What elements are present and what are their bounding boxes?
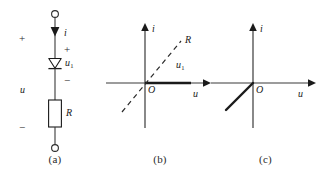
label-origin-b: O [148,85,155,95]
curve-combined-characteristic [226,83,253,110]
label-curve-u1: u1 [176,60,184,70]
label-axis-u-b: u [193,89,198,99]
curve-resistor-load-line [122,41,181,112]
label-axis-u-c: u [298,89,303,99]
label-current-i: i [64,28,67,38]
terminal-bottom-icon [52,145,59,152]
resistor-icon [49,100,62,127]
label-origin-c: O [256,85,263,95]
label-axis-i-b: i [152,24,155,34]
y-axis-arrow-icon [141,23,149,31]
current-arrow-icon [51,27,60,37]
caption-a: (a) [0,153,110,165]
panel-graph-c: i u O (c) [210,0,321,171]
polarity-plus-outer: + [19,33,25,44]
label-axis-i-c: i [260,24,263,34]
polarity-minus-inner: − [64,75,70,86]
label-u: u [20,85,25,95]
x-axis-arrow-icon [308,79,316,87]
panel-graph-b: i u O R u1 (b) [105,0,215,171]
graph-c-axes [210,0,321,171]
terminal-top-icon [52,11,59,18]
label-diode-voltage-u1: u1 [65,58,73,68]
caption-c: (c) [210,153,321,165]
figure-container: + u − i + u1 − R (a) i u O R u1 ( [0,0,321,171]
caption-b: (b) [105,153,215,165]
label-load-line-R: R [185,35,191,45]
polarity-minus-outer: − [19,122,25,133]
polarity-plus-inner: + [64,44,70,55]
graph-b-axes [105,0,215,171]
diode-triangle-icon [49,59,61,69]
panel-circuit-a: + u − i + u1 − R (a) [0,0,110,171]
circuit-schematic [0,0,110,171]
label-resistor-R: R [66,108,72,118]
y-axis-arrow-icon [249,23,257,31]
